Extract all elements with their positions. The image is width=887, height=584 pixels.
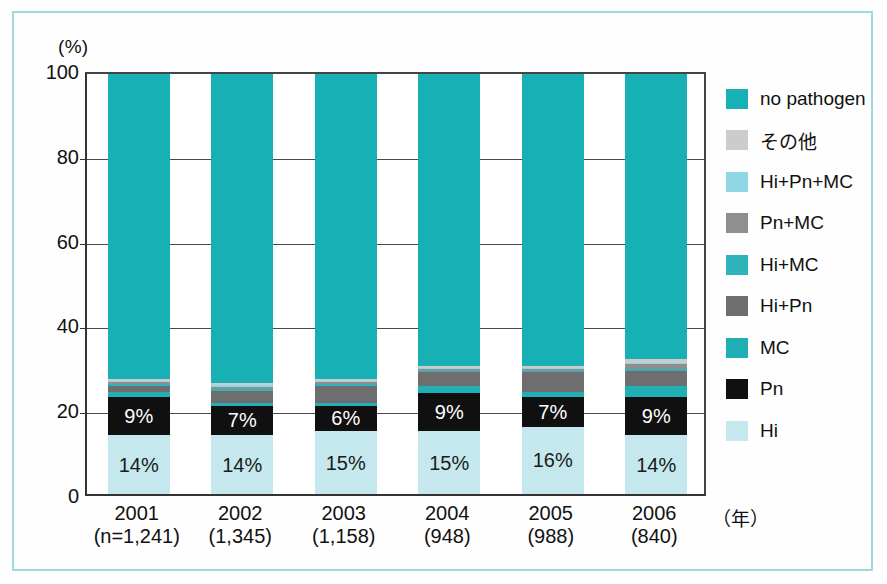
bar-stack: 15%9%	[418, 74, 480, 494]
bar-segment: 14%	[211, 435, 273, 494]
bar-stack: 16%7%	[522, 74, 584, 494]
bar-segment-value-label: 9%	[642, 406, 671, 426]
legend-item[interactable]: Pn+MC	[726, 203, 866, 245]
chart-figure: (%) 020406080100 14%9%14%7%15%6%15%9%16%…	[0, 0, 887, 584]
legend-item[interactable]: Hi+MC	[726, 244, 866, 286]
y-axis-unit-label: (%)	[58, 36, 88, 58]
legend-swatch-icon	[726, 89, 748, 109]
legend-item[interactable]: その他	[726, 120, 866, 162]
x-axis-category-label: 2006(840)	[594, 502, 714, 548]
legend-item-label: MC	[760, 337, 790, 359]
bar-segment	[625, 371, 687, 386]
bar-segment: 14%	[625, 435, 687, 494]
legend-swatch-icon	[726, 255, 748, 275]
bar-segment	[625, 363, 687, 365]
x-axis-year: 2001	[77, 502, 197, 525]
legend-swatch-icon	[726, 338, 748, 358]
bar-segment	[315, 384, 377, 386]
x-axis-year: 2002	[180, 502, 300, 525]
legend-item-label: Hi+MC	[760, 254, 819, 276]
y-axis-tick-mark	[80, 328, 87, 329]
bar-segment	[522, 368, 584, 369]
bar-segment	[315, 381, 377, 382]
bar-segment	[625, 359, 687, 362]
y-axis-tick-label: 40	[33, 315, 79, 338]
legend-item[interactable]: Hi	[726, 410, 866, 452]
bar-segment	[315, 403, 377, 406]
legend-item[interactable]: Pn	[726, 369, 866, 411]
bar-segment-value-label: 6%	[331, 408, 360, 428]
legend-swatch-icon	[726, 296, 748, 316]
bar-segment-value-label: 7%	[228, 410, 257, 430]
bar-segment	[108, 384, 170, 386]
bar-segment-value-label: 9%	[124, 406, 153, 426]
x-axis-tick-labels: 2001(n=1,241)2002(1,345)2003(1,158)2004(…	[85, 502, 706, 558]
bar-segment	[625, 386, 687, 397]
bar-segment: 9%	[625, 397, 687, 435]
legend-swatch-icon	[726, 172, 748, 192]
x-axis-category-label: 2003(1,158)	[284, 502, 404, 548]
bar-segment	[108, 381, 170, 382]
bar-segment-value-label: 16%	[533, 450, 573, 470]
x-axis-category-label: 2001(n=1,241)	[77, 502, 197, 548]
x-axis-sample-size: (1,345)	[180, 525, 300, 548]
legend-item-label: Hi+Pn	[760, 295, 812, 317]
bar-segment	[315, 386, 377, 404]
bar-segment	[108, 379, 170, 381]
gridline	[87, 328, 704, 329]
x-axis-year: 2005	[491, 502, 611, 525]
bar-segment	[418, 372, 480, 386]
bar-segment	[522, 74, 584, 366]
legend-item-label: その他	[760, 127, 817, 154]
bar-segment-value-label: 15%	[326, 453, 366, 473]
bar-segment	[108, 382, 170, 384]
legend-item[interactable]: no pathogen	[726, 78, 866, 120]
legend-item[interactable]: Hi+Pn+MC	[726, 161, 866, 203]
legend-swatch-icon	[726, 421, 748, 441]
bar-segment	[522, 372, 584, 391]
bar-segment: 16%	[522, 427, 584, 494]
bar-stack: 14%9%	[625, 74, 687, 494]
x-axis-year: 2006	[594, 502, 714, 525]
x-axis-year: 2004	[387, 502, 507, 525]
y-axis-tick-mark	[80, 244, 87, 245]
bar-stack: 14%7%	[211, 74, 273, 494]
gridline	[87, 413, 704, 414]
y-axis-tick-label: 60	[33, 230, 79, 253]
legend-swatch-icon	[726, 213, 748, 233]
bar-segment: 9%	[108, 397, 170, 435]
bar-segment: 7%	[522, 397, 584, 426]
bar-segment: 7%	[211, 406, 273, 435]
bar-segment	[522, 371, 584, 373]
bar-segment	[211, 385, 273, 387]
legend-item[interactable]: MC	[726, 327, 866, 369]
bar-segment	[625, 74, 687, 359]
bar-segment-value-label: 15%	[429, 453, 469, 473]
bar-segment-value-label: 7%	[538, 402, 567, 422]
x-axis-sample-size: (948)	[387, 525, 507, 548]
bar-segment	[418, 74, 480, 366]
bar-segment	[211, 383, 273, 385]
bar-segment	[211, 389, 273, 391]
bar-segment	[315, 382, 377, 384]
legend-swatch-icon	[726, 379, 748, 399]
y-axis-tick-label: 20	[33, 400, 79, 423]
x-axis-year: 2003	[284, 502, 404, 525]
legend-item[interactable]: Hi+Pn	[726, 286, 866, 328]
x-axis-sample-size: (840)	[594, 525, 714, 548]
bar-segment	[522, 366, 584, 368]
x-axis-sample-size: (988)	[491, 525, 611, 548]
bar-segment	[418, 368, 480, 369]
bar-segment	[625, 369, 687, 371]
bar-segment	[211, 403, 273, 406]
y-axis-tick-mark	[80, 413, 87, 414]
bar-segment	[211, 74, 273, 383]
bar-segment-value-label: 9%	[435, 402, 464, 422]
y-axis-tick-label: 80	[33, 145, 79, 168]
bar-segment	[522, 369, 584, 371]
bar-segment	[418, 369, 480, 371]
legend-item-label: no pathogen	[760, 88, 866, 110]
bar-segment	[108, 386, 170, 393]
x-axis-category-label: 2002(1,345)	[180, 502, 300, 548]
bar-segment	[211, 391, 273, 404]
